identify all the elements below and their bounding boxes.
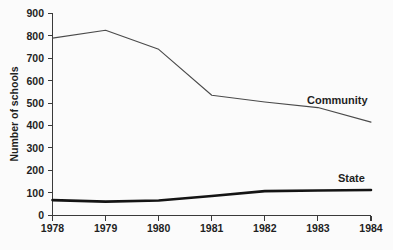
y-tick-label: 600 <box>26 75 44 87</box>
series-line-community <box>53 30 372 122</box>
y-tick-label: 800 <box>26 30 44 42</box>
y-tick-label: 300 <box>26 142 44 154</box>
y-axis-ticks: 900 800 700 600 500 400 300 200 100 0 <box>26 7 52 221</box>
x-tick-label: 1983 <box>306 222 330 234</box>
series-line-state <box>53 190 372 202</box>
y-tick-label: 400 <box>26 119 44 131</box>
series-label-state: State <box>338 172 365 184</box>
y-tick-label: 200 <box>26 164 44 176</box>
x-axis-ticks: 1978 1979 1980 1981 1982 1983 1984 <box>41 216 383 235</box>
y-tick-label: 700 <box>26 52 44 64</box>
x-tick-label: 1982 <box>253 222 277 234</box>
x-tick-label: 1984 <box>359 222 383 234</box>
y-tick-label: 0 <box>38 209 44 221</box>
x-tick-label: 1981 <box>200 222 224 234</box>
chart-canvas: 900 800 700 600 500 400 300 200 100 0 19… <box>0 0 393 250</box>
y-tick-label: 500 <box>26 97 44 109</box>
y-axis-title: Number of schools <box>8 66 20 161</box>
x-tick-label: 1980 <box>147 222 171 234</box>
y-tick-label: 900 <box>26 7 44 19</box>
y-tick-label: 100 <box>26 187 44 199</box>
x-tick-label: 1978 <box>41 222 65 234</box>
x-tick-label: 1979 <box>94 222 118 234</box>
line-chart: 900 800 700 600 500 400 300 200 100 0 19… <box>0 0 393 250</box>
series-label-community: Community <box>307 94 368 106</box>
